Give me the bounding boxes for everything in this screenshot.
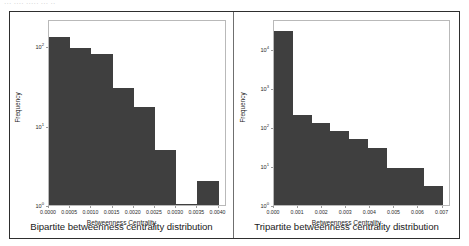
x-tick-label: 0.0030 [167, 209, 183, 215]
histogram-bar [155, 150, 176, 206]
x-tick-label: 0.007 [435, 209, 448, 215]
y-tick-mark [271, 167, 273, 168]
histogram-bar [293, 115, 312, 205]
x-tick-label: 0.0015 [104, 209, 120, 215]
histogram-bar [134, 107, 155, 205]
y-tick-mark [46, 47, 48, 48]
x-tick-label: 0.004 [363, 209, 376, 215]
y-tick-label: 104 [247, 47, 269, 53]
x-tick-label: 0.0025 [146, 209, 162, 215]
caption-tripartite: Tripartite betweenness centrality distri… [234, 216, 459, 236]
table-cell-bipartite: Frequency 100101102 0.00000.00050.00100.… [10, 12, 234, 238]
x-tick-mark [393, 206, 394, 208]
y-tick-label: 103 [247, 86, 269, 92]
x-tick-mark [417, 206, 418, 208]
histogram-bars-left [49, 21, 225, 205]
x-tick-label: 0.001 [291, 209, 304, 215]
y-tick-label: 101 [247, 164, 269, 170]
x-tick-label: 0.0020 [125, 209, 141, 215]
x-tick-mark [218, 206, 219, 208]
histogram-bar [330, 131, 349, 205]
y-tick-mark [271, 89, 273, 90]
histogram-bars-right [274, 21, 449, 205]
histogram-bar [91, 54, 112, 205]
chart-bipartite: Frequency 100101102 0.00000.00050.00100.… [10, 12, 233, 218]
x-tick-mark [297, 206, 298, 208]
figure-table-frame: Frequency 100101102 0.00000.00050.00100.… [9, 11, 460, 239]
histogram-bar [113, 88, 134, 205]
y-tick-mark [271, 128, 273, 129]
x-tick-mark [196, 206, 197, 208]
y-tick-label: 101 [22, 124, 44, 130]
x-tick-mark [273, 206, 274, 208]
x-tick-label: 0.002 [315, 209, 328, 215]
histogram-bar [70, 48, 91, 205]
x-tick-label: 0.0000 [40, 209, 56, 215]
x-tick-mark [133, 206, 134, 208]
chart-tripartite: Frequency 100101102103104 0.0000.0010.00… [234, 12, 459, 218]
x-tick-label: 0.006 [411, 209, 424, 215]
histogram-bar [349, 139, 368, 205]
histogram-bar [424, 186, 443, 205]
caption-bipartite: Bipartite betweenness centrality distrib… [10, 216, 233, 236]
histogram-bar [387, 168, 406, 205]
x-tick-mark [442, 206, 443, 208]
x-tick-mark [112, 206, 113, 208]
histogram-bar [49, 37, 70, 205]
y-tick-mark [271, 50, 273, 51]
x-tick-label: 0.0040 [210, 209, 226, 215]
x-tick-label: 0.003 [339, 209, 352, 215]
x-tick-mark [175, 206, 176, 208]
plot-area-right [273, 20, 450, 206]
x-tick-label: 0.0010 [82, 209, 98, 215]
x-tick-mark [69, 206, 70, 208]
y-tick-label: 102 [22, 44, 44, 50]
x-tick-label: 0.0035 [188, 209, 204, 215]
table-cell-tripartite: Frequency 100101102103104 0.0000.0010.00… [234, 12, 459, 238]
histogram-bar [274, 31, 293, 205]
histogram-bar [405, 168, 424, 205]
x-tick-mark [345, 206, 346, 208]
y-tick-label: 102 [247, 125, 269, 131]
histogram-bar [197, 181, 218, 205]
y-tick-mark [46, 127, 48, 128]
screenshot-root: ··· ···· ····· ··· ·· Frequency 10010110… [0, 0, 469, 246]
x-tick-mark [90, 206, 91, 208]
plot-area-left [48, 20, 226, 206]
y-axis-label-left: Frequency [14, 88, 21, 128]
x-tick-mark [48, 206, 49, 208]
y-axis-label-right: Frequency [239, 88, 246, 128]
histogram-bar [312, 123, 331, 205]
x-tick-mark [369, 206, 370, 208]
clipped-header-text: ··· ···· ····· ··· ·· [4, 0, 174, 7]
histogram-bar [176, 204, 197, 205]
x-tick-mark [154, 206, 155, 208]
x-tick-label: 0.005 [387, 209, 400, 215]
histogram-bar [368, 148, 387, 206]
x-tick-label: 0.0005 [61, 209, 77, 215]
x-tick-label: 0.000 [267, 209, 280, 215]
x-tick-mark [321, 206, 322, 208]
